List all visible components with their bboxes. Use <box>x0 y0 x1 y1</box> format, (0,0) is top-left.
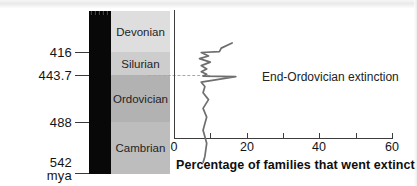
age-tick-mark-542 <box>75 173 89 174</box>
xtick-60 <box>392 133 393 139</box>
xtick-10 <box>210 133 211 139</box>
xtick-30 <box>283 133 284 139</box>
black-bar-speckle <box>90 11 110 15</box>
xtick-20 <box>247 133 248 139</box>
age-unit-label: mya <box>0 168 72 183</box>
age-tick-mark-416 <box>75 52 89 53</box>
xtick-0 <box>174 133 175 139</box>
plot-vertical-axis <box>174 10 175 138</box>
period-band-devonian: Devonian <box>111 11 170 52</box>
plot-x-axis <box>174 138 392 139</box>
scan-artifact-top <box>0 0 417 8</box>
period-label-silurian: Silurian <box>121 58 159 70</box>
age-tick-label-443-7: 443.7 <box>0 68 72 83</box>
x-axis-title: Percentage of families that went extinct <box>176 158 415 172</box>
xtick-label-40: 40 <box>309 140 329 154</box>
age-tick-label-488: 488 <box>0 115 72 130</box>
xtick-label-20: 20 <box>237 140 257 154</box>
extinction-curve <box>199 43 235 163</box>
period-band-cambrian: Cambrian <box>111 122 170 174</box>
period-label-devonian: Devonian <box>116 26 165 38</box>
xtick-50 <box>356 133 357 139</box>
black-time-bar <box>89 11 111 174</box>
age-tick-mark-488 <box>75 122 89 123</box>
age-tick-label-416: 416 <box>0 45 72 60</box>
age-tick-mark-443-7 <box>75 75 89 76</box>
end-ordovician-annotation: End-Ordovician extinction <box>262 70 399 84</box>
period-label-ordovician: Ordovician <box>113 93 168 105</box>
xtick-label-60: 60 <box>382 140 402 154</box>
period-label-cambrian: Cambrian <box>116 142 166 154</box>
stratigraphic-column: Devonian Silurian Ordovician Cambrian <box>89 11 170 174</box>
extinction-figure: 416 443.7 488 542 mya Devonian Silurian … <box>0 0 417 186</box>
period-band-silurian: Silurian <box>111 52 170 75</box>
period-band-ordovician: Ordovician <box>111 75 170 122</box>
xtick-40 <box>319 133 320 139</box>
